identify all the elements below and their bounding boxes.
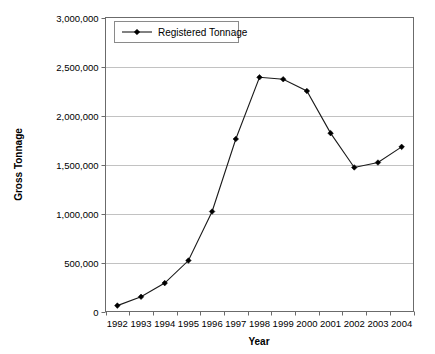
x-tick-label: 1993 bbox=[130, 318, 151, 329]
y-tick-label: 3,000,000 bbox=[56, 13, 98, 24]
y-tick-label: 0 bbox=[93, 307, 98, 318]
chart-container: 0500,0001,000,0001,500,0002,000,0002,500… bbox=[0, 0, 435, 354]
x-tick-label: 1998 bbox=[249, 318, 270, 329]
x-axis-title: Year bbox=[248, 336, 269, 347]
x-tick-label: 1997 bbox=[225, 318, 246, 329]
x-tick-label: 1996 bbox=[202, 318, 223, 329]
y-axis-title: Gross Tonnage bbox=[13, 128, 24, 201]
x-tick-label: 2004 bbox=[391, 318, 412, 329]
y-tick-label: 1,000,000 bbox=[56, 209, 98, 220]
y-tick-label: 500,000 bbox=[64, 258, 98, 269]
x-tick-label: 1995 bbox=[178, 318, 199, 329]
chart-legend: Registered Tonnage bbox=[115, 22, 248, 43]
y-tick-label: 2,500,000 bbox=[56, 62, 98, 73]
legend-label-registered-tonnage: Registered Tonnage bbox=[158, 27, 248, 38]
line-chart: 0500,0001,000,0001,500,0002,000,0002,500… bbox=[0, 0, 435, 354]
y-tick-label: 1,500,000 bbox=[56, 160, 98, 171]
x-tick-label: 2001 bbox=[320, 318, 341, 329]
x-tick-label: 1994 bbox=[154, 318, 175, 329]
y-tick-label: 2,000,000 bbox=[56, 111, 98, 122]
x-tick-label: 1999 bbox=[273, 318, 294, 329]
x-tick-label: 2002 bbox=[344, 318, 365, 329]
x-tick-label: 1992 bbox=[107, 318, 128, 329]
x-tick-label: 2003 bbox=[367, 318, 388, 329]
chart-background bbox=[0, 0, 435, 354]
x-tick-label: 2000 bbox=[296, 318, 317, 329]
